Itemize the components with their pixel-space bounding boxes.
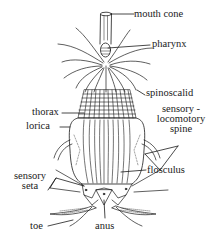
label-thorax: thorax: [32, 107, 59, 117]
label-toe: toe: [30, 221, 43, 231]
posterior-drawing: [50, 170, 168, 205]
pharynx-drawing: [101, 43, 111, 57]
label-anus: anus: [95, 221, 114, 231]
label-sensory-seta-line2: seta: [10, 181, 50, 191]
label-sensory-locomotory-spine-line3: spine: [150, 124, 212, 134]
mouth-cone-drawing: [100, 12, 112, 44]
label-flosculus: flosculus: [147, 165, 185, 175]
label-lorica: lorica: [26, 121, 50, 131]
label-pharynx: pharynx: [152, 39, 186, 49]
label-mouth-cone: mouth cone: [134, 9, 183, 19]
thorax-drawing: [78, 90, 136, 118]
label-spinoscalid: spinoscalid: [146, 88, 193, 98]
lorica-drawing: [69, 118, 144, 184]
spinoscalids-drawing: [58, 28, 152, 92]
loricifera-diagram: mouth cone pharynx spinoscalid sensory -…: [0, 0, 212, 238]
